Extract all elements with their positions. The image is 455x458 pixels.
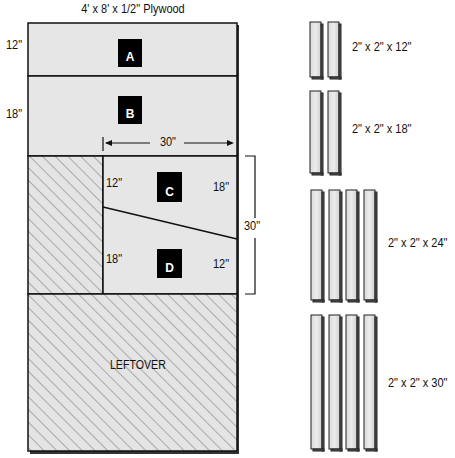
lumber-24 — [311, 190, 377, 302]
height-dimension: 30" — [244, 219, 260, 233]
panel-c-right: 18" — [213, 180, 229, 194]
panel-leftover — [28, 294, 237, 451]
lumber-18 — [310, 91, 341, 175]
lumber-18-label: 2" x 2" x 18" — [352, 122, 411, 136]
scrap-left — [28, 156, 103, 294]
panel-b-tag: B — [118, 96, 142, 124]
panel-a-tag: A — [118, 39, 142, 67]
panel-b-height: 18" — [6, 107, 22, 121]
lumber-24-label: 2" x 2" x 24" — [388, 236, 447, 250]
panel-c-tag: C — [157, 172, 182, 202]
leftover-label: LEFTOVER — [110, 358, 166, 372]
panel-d-tag: D — [157, 249, 182, 278]
cut-diagram — [0, 0, 455, 458]
lumber-12-label: 2" x 2" x 12" — [352, 40, 411, 54]
panel-c-left: 12" — [106, 176, 122, 190]
lumber-30-label: 2" x 2" x 30" — [388, 376, 447, 390]
panel-d-left: 18" — [106, 252, 122, 266]
panel-a-height: 12" — [6, 38, 22, 52]
lumber-30 — [311, 315, 377, 451]
panel-d-right: 12" — [213, 257, 229, 271]
width-dimension: 30" — [159, 135, 177, 149]
lumber-12 — [310, 22, 341, 79]
